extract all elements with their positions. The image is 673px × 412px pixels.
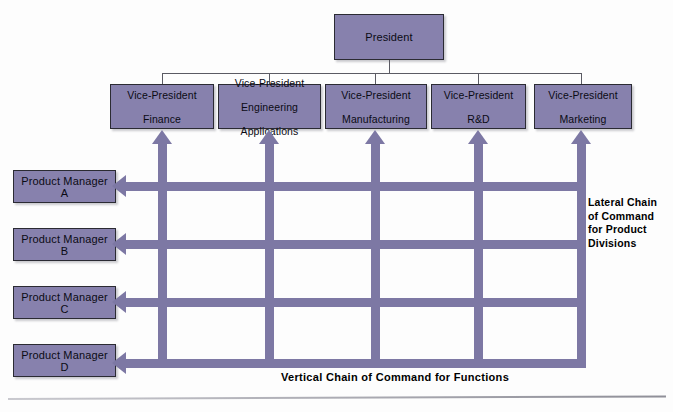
connector-drop-finance <box>162 73 163 84</box>
node-vp-marketing[interactable]: Vice-President Marketing <box>534 84 632 129</box>
vp-rd-line1: Vice-President <box>441 89 517 101</box>
node-vp-manufacturing-label: Vice-President Manufacturing <box>335 89 417 125</box>
node-vp-finance[interactable]: Vice-President Finance <box>110 84 214 129</box>
node-product-manager-c[interactable]: Product Manager C <box>13 286 116 319</box>
arrow-left-icon-product-a <box>112 175 126 197</box>
connector-drop-rd <box>478 73 479 84</box>
node-product-manager-d[interactable]: Product Manager D <box>13 344 116 377</box>
matrix-horizontal-bar-d <box>126 359 586 368</box>
matrix-vertical-bar-rd <box>474 143 483 368</box>
vp-engineering-line2: Engineering <box>232 101 308 113</box>
caption-lateral-line4: Divisions <box>588 237 636 249</box>
caption-lateral-chain-of-command: Lateral Chain of Command for Product Div… <box>588 196 673 250</box>
node-vp-engineering-applications[interactable]: Vice-President Engineering Applications <box>218 84 321 129</box>
matrix-vertical-bar-engineering <box>265 143 274 368</box>
vp-manufacturing-line2: Manufacturing <box>338 113 414 125</box>
node-product-manager-b[interactable]: Product Manager B <box>13 228 116 261</box>
node-vp-finance-label: Vice-President Finance <box>121 89 203 125</box>
connector-drop-marketing <box>581 73 582 84</box>
connector-drop-manufacturing <box>375 73 376 84</box>
caption-lateral-line3: for Product <box>588 223 647 235</box>
node-president-label: President <box>362 31 415 43</box>
node-product-manager-a[interactable]: Product Manager A <box>13 170 116 203</box>
vp-manufacturing-line1: Vice-President <box>338 89 414 101</box>
matrix-vertical-bar-marketing <box>577 143 586 368</box>
vp-engineering-line1: Vice-President <box>232 77 308 89</box>
node-president[interactable]: President <box>334 14 444 60</box>
arrow-up-icon-engineering <box>259 130 279 144</box>
arrow-left-icon-product-b <box>112 233 126 255</box>
vp-rd-line2: R&D <box>441 113 517 125</box>
node-vp-manufacturing[interactable]: Vice-President Manufacturing <box>325 84 427 129</box>
matrix-org-chart-figure: President Vice-President Finance Vice-Pr… <box>0 0 673 412</box>
caption-lateral-line1: Lateral Chain <box>588 196 657 208</box>
arrow-left-icon-product-d <box>112 352 126 374</box>
arrow-up-icon-rd <box>468 130 488 144</box>
caption-vertical-chain-of-command: Vertical Chain of Command for Functions <box>281 371 509 385</box>
connector-horizontal-bus <box>162 73 581 74</box>
vp-finance-line2: Finance <box>124 113 200 125</box>
matrix-horizontal-bar-b <box>126 240 586 249</box>
vp-finance-line1: Vice-President <box>124 89 200 101</box>
matrix-horizontal-bar-c <box>126 298 586 307</box>
arrow-up-icon-manufacturing <box>365 130 385 144</box>
node-product-manager-d-label: Product Manager D <box>14 349 115 373</box>
caption-lateral-line2: of Command <box>588 210 654 222</box>
node-product-manager-a-label: Product Manager A <box>14 175 115 199</box>
matrix-horizontal-bar-a <box>126 182 586 191</box>
vp-marketing-line2: Marketing <box>545 113 621 125</box>
page-divider-rule <box>8 395 666 400</box>
matrix-vertical-bar-manufacturing <box>371 143 380 368</box>
arrow-up-icon-marketing <box>571 130 591 144</box>
node-product-manager-c-label: Product Manager C <box>14 291 115 315</box>
node-vp-rd[interactable]: Vice-President R&D <box>431 84 526 129</box>
arrow-left-icon-product-c <box>112 291 126 313</box>
matrix-vertical-bar-finance <box>158 143 167 368</box>
arrow-up-icon-finance <box>152 130 172 144</box>
connector-president-stem <box>389 60 390 73</box>
vp-marketing-line1: Vice-President <box>545 89 621 101</box>
node-product-manager-b-label: Product Manager B <box>14 233 115 257</box>
node-vp-rd-label: Vice-President R&D <box>438 89 520 125</box>
node-vp-engineering-label: Vice-President Engineering Applications <box>229 77 311 137</box>
node-vp-marketing-label: Vice-President Marketing <box>542 89 624 125</box>
